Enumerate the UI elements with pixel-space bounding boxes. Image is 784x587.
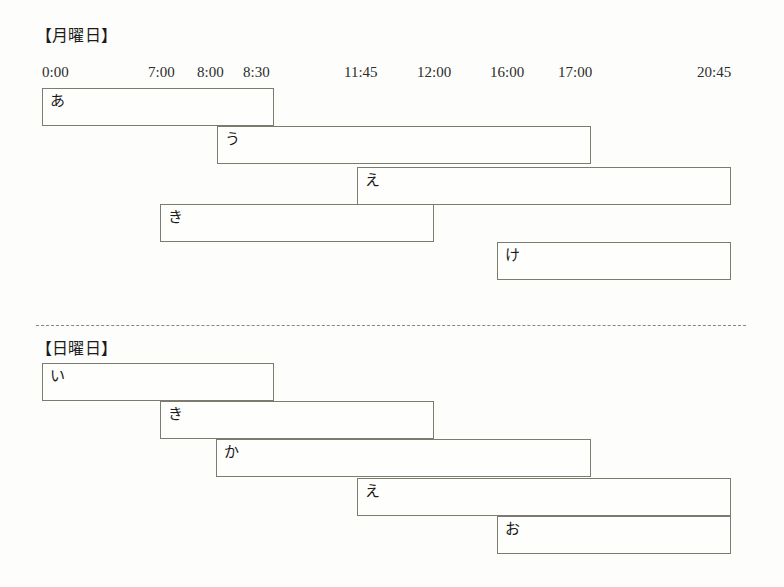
bar-sunday-ka: か [216,439,591,477]
tick-label-1600: 16:00 [490,63,524,81]
tick-label-1145: 11:45 [344,63,378,81]
tick-label-1200: 12:00 [417,63,451,81]
bar-label: い [50,368,65,385]
monday-time-axis: 0:00 7:00 8:00 8:30 11:45 12:00 16:00 17… [0,63,784,81]
bar-label: か [224,444,239,461]
sunday-panel-title: 【日曜日】 [36,341,117,357]
tick-label-1700: 17:00 [558,63,592,81]
tick-label-0000: 0:00 [42,63,69,81]
bar-sunday-e: え [357,478,731,516]
tick-label-0700: 7:00 [148,63,175,81]
bar-label: あ [50,93,65,110]
tick-label-0830: 8:30 [243,63,270,81]
bar-sunday-i: い [42,363,274,401]
bar-monday-ki: き [160,204,434,242]
bar-label: け [505,247,520,264]
tick-label-2045: 20:45 [697,63,731,81]
panel-divider [36,325,746,326]
bar-sunday-o: お [497,516,731,554]
bar-monday-ke: け [497,242,731,280]
bar-monday-a: あ [42,88,274,126]
bar-monday-e: え [357,167,731,205]
bar-label: え [365,483,380,500]
tick-label-0800: 8:00 [197,63,224,81]
monday-panel-title: 【月曜日】 [36,28,117,44]
bar-label: え [365,172,380,189]
bar-sunday-ki: き [160,401,434,439]
gantt-chart: 【月曜日】 0:00 7:00 8:00 8:30 11:45 12:00 16… [0,0,784,587]
bar-label: う [225,131,240,148]
bar-label: き [168,209,183,226]
bar-label: お [505,521,520,538]
bar-monday-u: う [217,126,591,164]
bar-label: き [168,406,183,423]
